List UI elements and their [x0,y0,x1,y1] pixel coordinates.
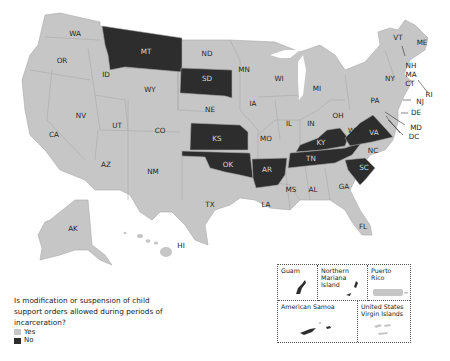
label-CA: CA [49,130,59,139]
label-AZ: AZ [101,160,111,169]
label-TX: TX [204,200,214,209]
label-PA: PA [371,96,380,105]
label-FL: FL [359,222,367,231]
label-UT: UT [112,121,122,130]
state-SD [180,68,232,98]
label-AK: AK [68,224,78,233]
label-VT: VT [393,33,403,42]
usvi-shape [370,321,400,339]
label-CO: CO [155,126,166,135]
label-DC: DC [409,132,420,141]
territory-insets: Guam Northern Mariana Island Puerto Rico… [277,264,411,343]
label-NJ: NJ [416,97,424,106]
label-TN: TN [305,154,316,163]
label-MS: MS [286,185,297,194]
inset-northern-mariana: Northern Mariana Island [318,265,368,301]
label-CT: CT [405,79,415,88]
pr-label-1: Puerto [371,267,407,274]
label-SD: SD [202,74,213,83]
label-IA: IA [249,99,256,108]
label-KS: KS [212,134,222,143]
guam-shape [292,278,312,298]
label-OH: OH [332,111,343,120]
label-ID: ID [102,70,110,79]
label-WY: WY [144,85,156,94]
label-WI: WI [274,74,283,83]
label-NC: NC [368,146,378,155]
label-NY: NY [385,74,395,83]
legend-swatch-yes [14,329,21,335]
label-RI: RI [425,90,432,99]
label-GA: GA [339,182,350,191]
label-ME: ME [417,38,428,47]
label-KY: KY [317,138,326,147]
label-IN: IN [307,119,315,128]
label-NH: NH [406,61,417,70]
label-IL: IL [286,119,292,128]
usvi-label-1: United States [361,303,407,310]
label-NV: NV [76,111,86,120]
inset-puerto-rico: Puerto Rico [368,265,410,301]
label-OK: OK [223,160,234,169]
label-MN: MN [238,65,250,74]
label-SC: SC [359,163,369,172]
state-HI [124,232,173,257]
label-WA: WA [69,29,81,38]
inset-american-samoa: American Samoa [278,301,358,342]
puerto-rico-shape [371,287,411,299]
pr-label-2: Rico [371,274,407,281]
label-LA: LA [261,200,270,209]
inset-usvi: United States Virgin Islands [358,301,410,342]
label-AL: AL [309,185,318,194]
label-VA: VA [369,128,378,137]
label-NM: NM [147,167,159,176]
nm-label-1: Northern [321,267,364,274]
legend-item-no: No [14,337,164,346]
label-HI: HI [177,241,185,250]
guam-label: Guam [281,267,300,274]
map-legend: Is modification or suspension of child s… [14,295,164,345]
label-MD: MD [410,123,422,132]
label-WV: WV [348,126,360,135]
inset-guam: Guam [278,265,318,301]
label-MA: MA [405,70,416,79]
legend-item-yes: Yes [14,328,164,337]
label-ND: ND [202,49,213,58]
label-AR: AR [262,165,272,174]
legend-question: Is modification or suspension of child s… [14,295,164,328]
northern-mariana-shape [344,279,364,299]
label-DE: DE [411,108,422,117]
label-MO: MO [260,134,272,143]
label-NE: NE [205,105,215,114]
legend-swatch-no [14,338,21,344]
american-samoa-shape [298,319,348,339]
label-OR: OR [57,56,68,65]
label-MT: MT [141,47,152,56]
american-samoa-label: American Samoa [281,303,335,310]
legend-label-no: No [24,335,34,346]
label-MI: MI [313,84,321,93]
usvi-label-2: Virgin Islands [361,310,407,317]
